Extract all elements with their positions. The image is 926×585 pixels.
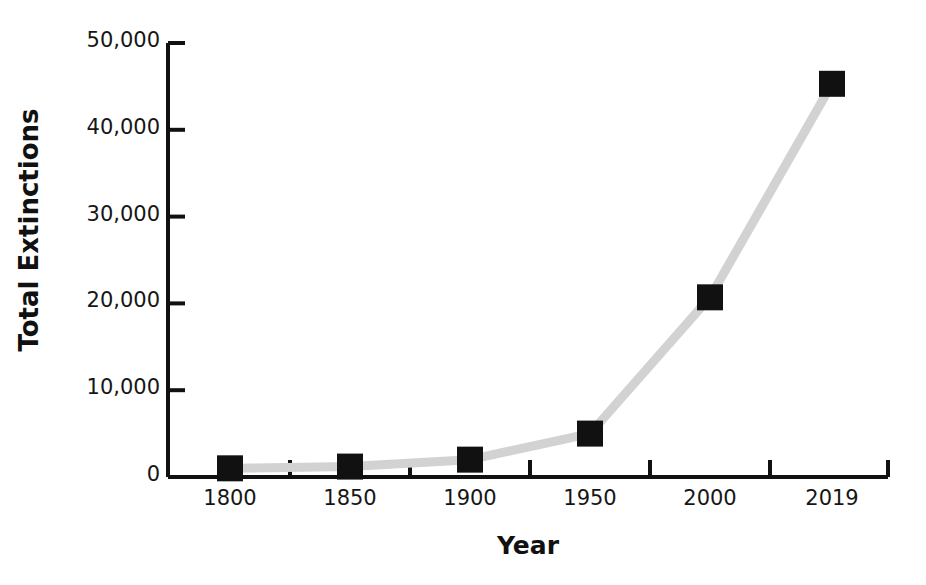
data-point-marker xyxy=(217,455,243,481)
x-tick-label: 1850 xyxy=(290,486,410,510)
y-tick-label: 10,000 xyxy=(20,375,160,399)
y-tick-label: 20,000 xyxy=(20,288,160,312)
x-tick-label: 1800 xyxy=(170,486,290,510)
y-tick-label: 0 xyxy=(20,462,160,486)
y-tick-label: 40,000 xyxy=(20,115,160,139)
data-point-marker xyxy=(577,421,603,447)
x-tick-label: 2019 xyxy=(772,486,892,510)
y-tick-label: 50,000 xyxy=(20,28,160,52)
data-point-marker xyxy=(337,454,363,480)
data-markers xyxy=(217,71,845,482)
data-point-marker xyxy=(697,284,723,310)
axis-lines xyxy=(168,43,888,477)
data-line xyxy=(230,84,832,469)
data-point-marker xyxy=(457,447,483,473)
extinctions-line-chart: NUMBER OF EXTINCTIONS AND WARNING Total … xyxy=(0,0,926,585)
y-tick-label: 30,000 xyxy=(20,202,160,226)
x-tick-label: 1950 xyxy=(530,486,650,510)
x-tick-label: 1900 xyxy=(410,486,530,510)
x-tick-label: 2000 xyxy=(650,486,770,510)
x-axis-title: Year xyxy=(168,531,888,560)
y-axis-tick-labels: 010,00020,00030,00040,00050,000 xyxy=(12,0,160,585)
data-point-marker xyxy=(819,71,845,97)
y-axis-ticks xyxy=(168,130,185,390)
